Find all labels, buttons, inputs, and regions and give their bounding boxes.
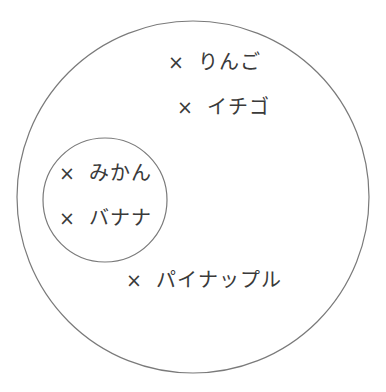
item-text: りんご <box>198 50 261 74</box>
item-label-apple: ×りんご <box>168 50 261 74</box>
item-label-strawberry: ×イチゴ <box>177 95 270 119</box>
inner-set-circle <box>43 138 167 262</box>
item-text: イチゴ <box>207 95 270 119</box>
cross-mark-icon: × <box>59 206 73 230</box>
item-text: パイナップル <box>156 268 282 292</box>
cross-mark-icon: × <box>126 268 140 292</box>
item-label-pineapple: ×パイナップル <box>126 268 282 292</box>
cross-mark-icon: × <box>59 161 73 185</box>
item-text: みかん <box>89 161 152 185</box>
item-label-banana: ×バナナ <box>59 206 152 230</box>
item-label-mandarin: ×みかん <box>59 161 152 185</box>
cross-mark-icon: × <box>168 50 182 74</box>
item-text: バナナ <box>89 206 152 230</box>
cross-mark-icon: × <box>177 95 191 119</box>
